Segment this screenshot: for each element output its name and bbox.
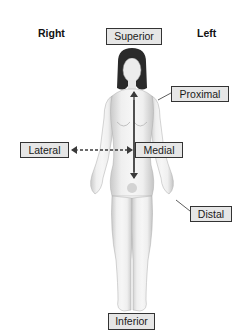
inferior-label: Inferior (108, 313, 155, 330)
proximal-leader-line (158, 93, 171, 100)
left-leg (132, 196, 153, 311)
proximal-label: Proximal (171, 86, 229, 102)
face (123, 58, 141, 82)
human-body-illustration (0, 0, 252, 335)
lateral-label: Lateral (20, 142, 69, 158)
medial-label: Medial (135, 142, 183, 158)
superior-label: Superior (106, 28, 162, 45)
distal-leader-line (176, 200, 190, 211)
distal-label: Distal (190, 206, 232, 222)
left-side-label: Left (197, 27, 216, 39)
right-side-label: Right (38, 27, 65, 39)
right-leg (112, 196, 133, 311)
